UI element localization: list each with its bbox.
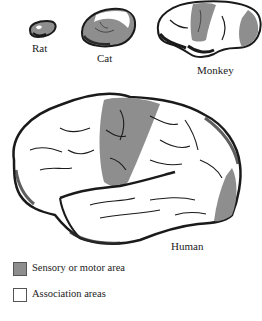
human-brain <box>13 94 240 244</box>
association-legend-label: Association areas <box>32 288 106 299</box>
rat-brain <box>30 21 56 37</box>
rat-label: Rat <box>32 42 47 54</box>
sensory-motor-swatch <box>13 262 27 276</box>
cat-label: Cat <box>97 52 112 64</box>
monkey-brain <box>158 1 261 57</box>
cat-brain <box>82 9 135 47</box>
association-swatch <box>13 288 27 302</box>
human-label: Human <box>171 240 203 252</box>
sensory-motor-legend-label: Sensory or motor area <box>32 262 125 273</box>
monkey-label: Monkey <box>197 64 234 76</box>
